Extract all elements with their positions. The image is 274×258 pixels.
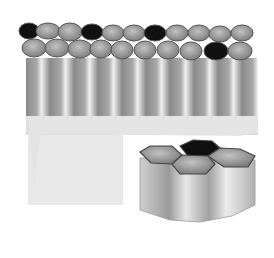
apical-cells-row-front [22,39,252,60]
tissue-section [28,130,123,205]
cell-cluster [140,140,255,222]
cell-columns [26,58,258,116]
epithelium-illustration [0,0,274,258]
illustration-svg [0,0,274,258]
